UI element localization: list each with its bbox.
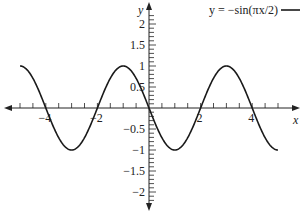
- y-tick-label: −1: [132, 143, 145, 157]
- x-axis-arrow-left: [4, 105, 12, 111]
- x-axis-arrow-right: [292, 105, 300, 111]
- y-tick-label: −2: [132, 185, 145, 199]
- y-axis-label: y: [137, 3, 144, 17]
- x-tick-labels: −4−224: [38, 111, 254, 125]
- x-axis-label: x: [292, 113, 299, 127]
- legend: y = −sin(πx/2): [209, 3, 300, 17]
- y-axis-arrow-top: [146, 2, 152, 10]
- x-tick-label: 4: [248, 111, 254, 125]
- y-tick-label: −1.5: [123, 164, 145, 178]
- y-axis-arrow-bottom: [146, 203, 152, 211]
- y-tick-label: −0.5: [123, 122, 145, 136]
- y-tick-label: 1.5: [130, 38, 145, 52]
- y-tick-label: 1: [139, 59, 145, 73]
- legend-label: y = −sin(πx/2): [209, 3, 278, 17]
- chart: −4−224 21.510.5−0.5−1−1.5−2 x y y = −sin…: [0, 0, 303, 212]
- y-tick-label: 2: [139, 17, 145, 31]
